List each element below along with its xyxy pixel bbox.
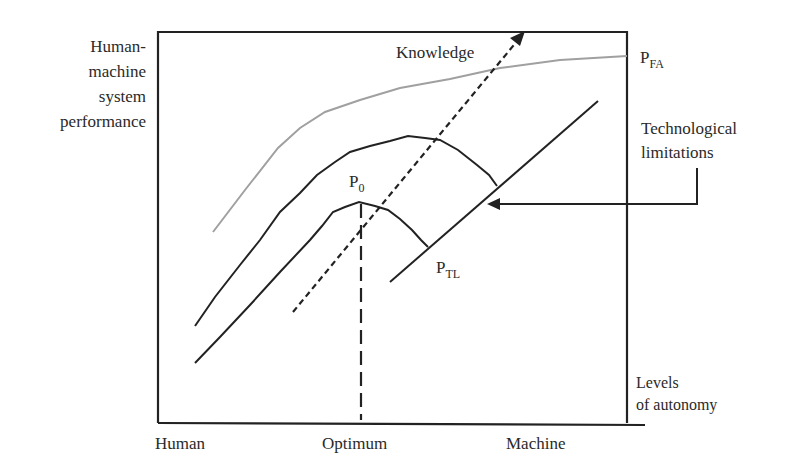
y-axis-label-line: Human- <box>40 34 146 59</box>
x-tick-human: Human <box>155 434 205 454</box>
technological-limitations-line <box>390 101 598 282</box>
knowledge-arrow-shaft <box>293 40 518 312</box>
p-fa-label: PFA <box>640 48 664 69</box>
x-axis-title-line: of autonomy <box>636 394 717 416</box>
x-tick-optimum: Optimum <box>322 434 387 454</box>
tech-limitation-pointer <box>498 168 697 204</box>
p-fa-subscript: FA <box>649 57 663 71</box>
p-tl-subscript: TL <box>445 267 460 281</box>
knowledge-arrowhead-icon <box>510 31 525 46</box>
intermediate-performance-curve <box>195 136 497 326</box>
tech-limitations-line: limitations <box>641 141 737 165</box>
technological-limitations-label: Technological limitations <box>641 117 737 165</box>
y-axis-label: Human- machine system performance <box>40 34 146 134</box>
x-axis-title: Levels of autonomy <box>636 372 717 416</box>
p0-performance-curve <box>195 202 428 363</box>
y-axis-label-line: performance <box>40 109 146 134</box>
p0-label: P0 <box>349 172 364 193</box>
tech-limitations-line: Technological <box>641 117 737 141</box>
p-tl-label: PTL <box>436 258 460 279</box>
p0-subscript: 0 <box>358 181 364 195</box>
x-axis-title-line: Levels <box>636 372 717 394</box>
tech-limitation-arrowhead-icon <box>487 198 500 210</box>
p-fa-curve <box>213 56 627 232</box>
x-axis <box>158 423 645 425</box>
y-axis-label-line: machine <box>40 59 146 84</box>
x-tick-machine: Machine <box>506 434 565 454</box>
y-axis-label-line: system <box>40 84 146 109</box>
knowledge-label: Knowledge <box>396 43 474 63</box>
